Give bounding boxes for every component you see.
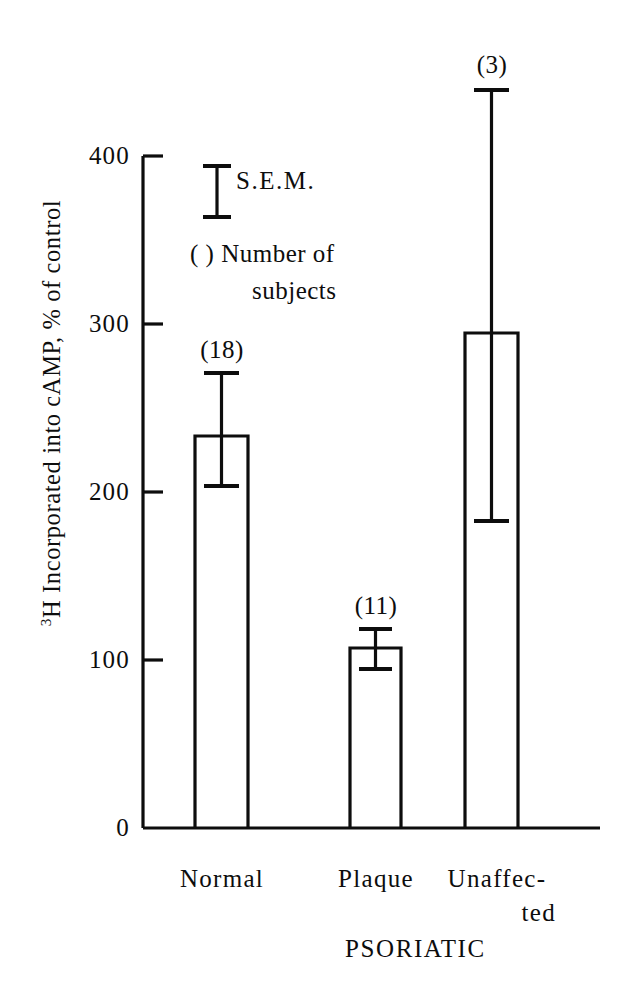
legend-subjects-label: ( ) Number of	[190, 240, 335, 268]
bar-count-normal: (18)	[181, 337, 263, 362]
group-caption-psoriatic: PSORIATIC	[345, 935, 486, 963]
x-category-plaque: Plaque	[322, 862, 430, 896]
x-category-unaffected: Unaffec- ted	[434, 862, 560, 930]
chart-figure: 3H Incorporated into cAMP, % of control …	[0, 0, 618, 996]
bar-plaque	[350, 648, 401, 828]
x-category-normal: Normal	[161, 862, 283, 896]
x-category-unaffected-line2: ted	[434, 896, 560, 930]
error-bar-unaffected	[474, 90, 509, 521]
x-category-unaffected-line1: Unaffec-	[448, 865, 547, 892]
legend-sem-label: S.E.M.	[236, 167, 315, 195]
legend-subjects-label-line2: subjects	[252, 277, 337, 305]
chart-legend: S.E.M. ( ) Number of subjects	[190, 152, 440, 224]
error-bar-normal	[204, 373, 239, 486]
bar-count-unaffected: (3)	[457, 52, 527, 77]
legend-row-sem: S.E.M.	[190, 152, 440, 224]
plot-area	[0, 0, 618, 996]
bar-count-plaque: (11)	[335, 593, 417, 618]
bar-normal	[195, 436, 248, 828]
